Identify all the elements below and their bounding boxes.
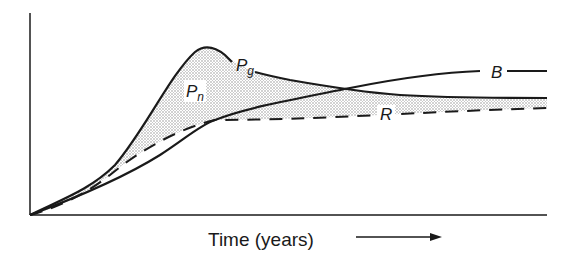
production-biomass-diagram: Pg Pn B R Time (years) (0, 0, 568, 260)
x-axis-label: Time (years) (208, 229, 314, 250)
label-r: R (380, 105, 392, 124)
label-b: B (491, 63, 502, 82)
label-pg: Pg (236, 56, 254, 78)
time-arrow-head-icon (430, 233, 442, 241)
curve-r (30, 108, 547, 215)
